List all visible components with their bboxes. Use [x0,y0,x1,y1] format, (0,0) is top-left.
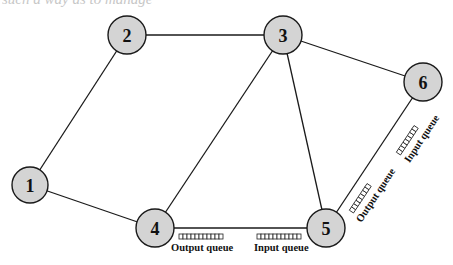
node-5: 5 [307,209,345,247]
input-queue-icon [257,234,301,239]
output-queue-icon [179,234,223,239]
node-4: 4 [136,209,174,247]
node-label: 6 [419,73,428,93]
edge-1-4 [30,185,155,228]
output-queue-label: Output queue [171,242,233,253]
node-label: 3 [279,26,288,46]
node-1: 1 [12,167,48,203]
node-label: 4 [151,219,160,239]
node-label: 5 [322,219,331,239]
edges [30,35,423,228]
node-label: 2 [123,26,132,46]
edge-3-4 [155,35,283,228]
edge-3-6 [283,35,423,82]
node-label: 1 [26,176,35,196]
edge-1-2 [30,35,127,185]
edge-3-5 [283,35,326,228]
nodes: 1 2 3 4 5 6 [12,16,442,247]
node-3: 3 [264,16,302,54]
queue-link-4-5: Output queue Input queue [171,234,309,253]
network-diagram: Output queue Input queue [0,0,453,265]
node-6: 6 [404,63,442,101]
node-2: 2 [108,16,146,54]
input-queue-label: Input queue [254,242,309,253]
